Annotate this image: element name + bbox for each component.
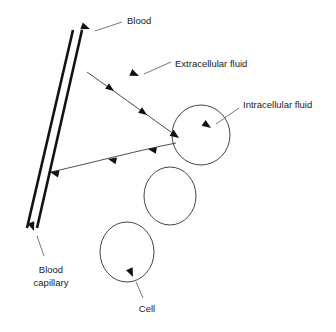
blood-capillary-label-line2: capillary <box>34 277 69 288</box>
flow-arrowhead-midpoint-1 <box>105 83 116 93</box>
diagram-canvas: Blood Extracellular fluid Intracellular … <box>0 0 336 332</box>
intracellular-fluid-label: Intracellular fluid <box>243 99 312 110</box>
extracellular-fluid-label: Extracellular fluid <box>175 58 247 69</box>
flow-cell-to-capillary <box>49 143 176 178</box>
capillary-wall-left <box>27 30 73 228</box>
capillary-wall-right <box>37 30 82 228</box>
extracellular-fluid-arrowhead <box>129 69 140 79</box>
cell-group <box>100 105 230 282</box>
extracellular-fluid-leader-line <box>144 62 171 74</box>
flow-arrowhead-midpoint-2 <box>138 107 149 117</box>
annotation-intracellular-fluid: Intracellular fluid <box>202 99 313 131</box>
flow-cell-to-capillary-line <box>51 143 176 172</box>
blood-capillary-leader-line <box>37 236 44 256</box>
flow-arrowhead-cell-entry <box>170 130 182 141</box>
blood-capillary-label-line1: Blood <box>39 264 63 275</box>
cell-lower <box>100 222 154 282</box>
cell-middle <box>144 167 196 225</box>
blood-label: Blood <box>127 15 151 26</box>
intracellular-fluid-arrowhead <box>202 120 214 131</box>
annotation-blood: Blood <box>80 15 151 33</box>
cell-leader-line <box>136 282 143 298</box>
flow-capillary-to-cell <box>87 72 181 141</box>
cell-label: Cell <box>139 303 155 314</box>
blood-leader-line <box>95 22 122 31</box>
flow-capillary-to-cell-line <box>87 72 178 137</box>
capillary-fluid-exchange-diagram: Blood Extracellular fluid Intracellular … <box>0 0 336 332</box>
annotation-extracellular-fluid: Extracellular fluid <box>129 58 247 80</box>
cell-upper <box>172 105 230 165</box>
blood-capillary-vessel <box>27 30 82 228</box>
cell-arrowhead <box>126 267 136 278</box>
annotation-blood-capillary: Blood capillary <box>28 221 69 287</box>
annotation-cell: Cell <box>126 267 155 313</box>
